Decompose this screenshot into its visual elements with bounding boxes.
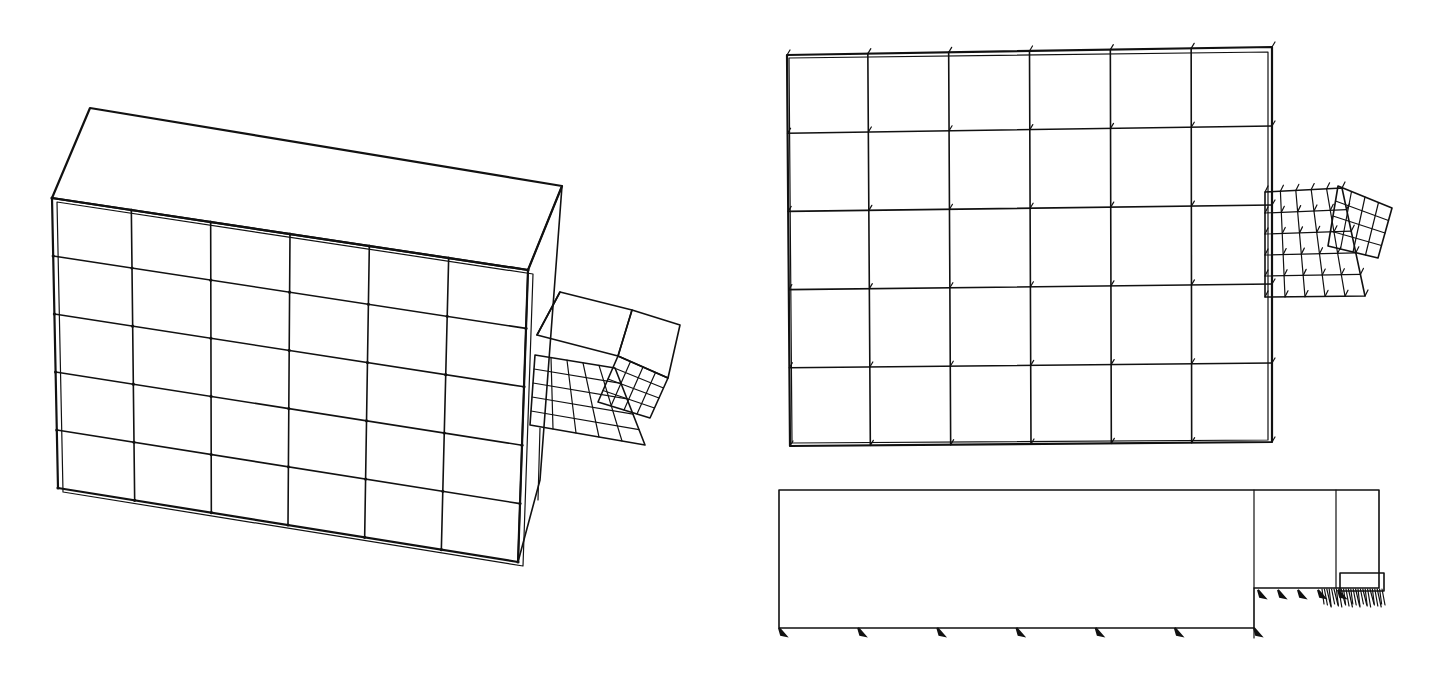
- plan-appendage-rotated-mesh: [1328, 186, 1392, 258]
- mesh-node: [288, 349, 291, 352]
- mesh-line: [211, 222, 212, 513]
- mesh-line: [1030, 51, 1032, 444]
- mesh-line: [868, 54, 871, 446]
- mesh-node: [444, 373, 447, 376]
- mesh-line: [567, 360, 576, 433]
- mesh-node: [446, 315, 449, 318]
- appendage-edge: [537, 292, 560, 335]
- mesh-node: [366, 361, 369, 364]
- mesh-node: [210, 453, 213, 456]
- plan-displaced-outline: [789, 52, 1268, 443]
- mesh-node: [132, 383, 135, 386]
- mesh-node: [133, 499, 136, 502]
- mesh-node: [209, 337, 212, 340]
- support-marker: [1175, 628, 1182, 636]
- mesh-line: [1265, 253, 1356, 255]
- plan-appendage-mesh: [1265, 188, 1365, 297]
- vector-tick: [1345, 290, 1348, 296]
- vector-tick: [1301, 248, 1304, 254]
- support-marker: [1318, 590, 1325, 598]
- mesh-line: [531, 411, 639, 430]
- mesh-node: [441, 490, 444, 493]
- mesh-line: [1191, 48, 1192, 442]
- mesh-node: [363, 536, 366, 539]
- elevation-outline: [779, 490, 1379, 628]
- support-marker: [937, 628, 944, 636]
- vector-tick: [1341, 269, 1344, 275]
- mesh-node: [520, 444, 523, 447]
- mesh-node: [286, 523, 289, 526]
- mesh-node: [131, 325, 134, 328]
- plan-view: [787, 42, 1392, 446]
- top-face: [52, 108, 562, 270]
- support-marker: [1278, 590, 1285, 598]
- vector-tick: [1303, 269, 1306, 275]
- support-marker: [1258, 590, 1265, 598]
- mesh-node: [209, 220, 212, 223]
- plan-mesh: [787, 47, 1272, 446]
- vector-tick: [1334, 226, 1337, 232]
- mesh-line: [532, 397, 633, 414]
- mesh-node: [526, 268, 529, 271]
- vector-tick: [1272, 42, 1275, 47]
- mesh-node: [54, 370, 57, 373]
- appendage-rotated-mesh-outline: [598, 356, 668, 418]
- mesh-line: [441, 258, 448, 550]
- vector-tick: [1305, 291, 1308, 297]
- vector-tick: [1322, 269, 1325, 275]
- figure-canvas: [0, 0, 1440, 674]
- mesh-line: [131, 210, 134, 500]
- mesh-line: [551, 358, 553, 429]
- support-marker: [1254, 628, 1261, 636]
- mesh-node: [50, 196, 53, 199]
- mesh-node: [522, 385, 525, 388]
- vector-tick: [1360, 268, 1363, 274]
- mesh-line: [1333, 216, 1385, 233]
- appendage-support-line: [538, 428, 540, 500]
- mesh-line: [583, 363, 599, 437]
- mesh-line: [1311, 190, 1325, 297]
- support-marker: [1096, 628, 1103, 636]
- vector-tick: [1319, 248, 1322, 254]
- support-marker: [779, 628, 786, 636]
- mesh-node: [516, 560, 519, 563]
- mesh-node: [209, 279, 212, 282]
- mesh-node: [130, 266, 133, 269]
- vector-tick: [1298, 206, 1301, 212]
- mesh-node: [518, 502, 521, 505]
- vector-tick: [1314, 205, 1317, 211]
- mesh-line: [365, 246, 370, 537]
- elevation-view: [779, 490, 1385, 638]
- mesh-node: [132, 441, 135, 444]
- mesh-node: [288, 232, 291, 235]
- vector-tick: [1299, 227, 1302, 233]
- mesh-line: [1265, 274, 1360, 276]
- mesh-line: [1331, 231, 1382, 246]
- vector-tick: [1365, 290, 1368, 296]
- mesh-node: [53, 312, 56, 315]
- vector-tick: [1317, 226, 1320, 232]
- vector-tick: [1330, 204, 1333, 210]
- support-marker: [1017, 628, 1024, 636]
- mesh-node: [287, 465, 290, 468]
- diagram-svg: [0, 0, 1440, 674]
- isometric-view: [50, 108, 680, 566]
- mesh-node: [368, 244, 371, 247]
- mesh-node: [447, 256, 450, 259]
- mesh-node: [130, 208, 133, 211]
- vector-tick: [1356, 247, 1359, 253]
- mesh-line: [949, 52, 951, 444]
- mesh-node: [367, 303, 370, 306]
- mesh-node: [210, 511, 213, 514]
- mesh-line: [288, 234, 290, 525]
- vector-tick: [1351, 225, 1354, 231]
- mesh-node: [524, 327, 527, 330]
- mesh-node: [55, 428, 58, 431]
- mesh-node: [287, 407, 290, 410]
- mesh-line: [1110, 50, 1111, 444]
- mesh-node: [443, 431, 446, 434]
- mesh-node: [364, 477, 367, 480]
- mesh-node: [440, 548, 443, 551]
- plan-appendage-mesh-outline: [1265, 188, 1365, 297]
- mesh-node: [56, 486, 59, 489]
